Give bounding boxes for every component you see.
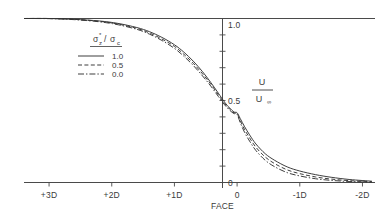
x-axis-tick-label: 0 bbox=[235, 190, 240, 200]
y-axis-tick-labels: 1.00.50 bbox=[228, 20, 240, 189]
curve-series bbox=[24, 18, 372, 181]
curve-series bbox=[24, 18, 372, 181]
x-axis-tick-label: +1D bbox=[166, 190, 182, 200]
y-axis-label-denominator: U bbox=[256, 94, 263, 104]
chart-svg: +3D+2D+1D0-1D-2D 1.00.50 FACE U U ∞ σ * … bbox=[0, 0, 381, 216]
legend-entries: 1.00.50.0 bbox=[78, 52, 124, 79]
legend-title-slash: / bbox=[104, 34, 107, 44]
y-axis-tick-label: 0 bbox=[228, 178, 233, 188]
x-axis-tick-label: -1D bbox=[293, 190, 307, 200]
legend: σ * z / σ c 1.00.50.0 bbox=[78, 32, 124, 79]
legend-title-subscript-z: z bbox=[99, 40, 102, 46]
curve-series bbox=[24, 19, 372, 183]
data-curves bbox=[24, 18, 372, 182]
legend-title-sigma-c: σ bbox=[110, 34, 116, 44]
x-axis-ticks bbox=[49, 183, 362, 187]
origin-caption: FACE bbox=[211, 201, 234, 211]
legend-title-star: * bbox=[99, 32, 102, 38]
y-axis-tick-label: 1.0 bbox=[228, 20, 240, 30]
x-axis-tick-label: +3D bbox=[41, 190, 57, 200]
x-axis-tick-labels: +3D+2D+1D0-1D-2D bbox=[41, 190, 370, 200]
legend-title: σ * z / σ c bbox=[90, 32, 122, 47]
y-axis-label-denominator-subscript: ∞ bbox=[267, 99, 271, 105]
velocity-profile-figure: +3D+2D+1D0-1D-2D 1.00.50 FACE U U ∞ σ * … bbox=[0, 0, 381, 216]
x-axis-tick-label: +2D bbox=[104, 190, 120, 200]
y-axis-tick-label: 0.5 bbox=[228, 96, 240, 106]
y-axis-label-numerator: U bbox=[259, 77, 266, 87]
legend-entry-label: 0.0 bbox=[112, 70, 124, 79]
y-axis-label: U U ∞ bbox=[252, 77, 273, 105]
legend-title-subscript-c: c bbox=[117, 40, 120, 46]
x-axis-tick-label: -2D bbox=[355, 190, 369, 200]
legend-entry-label: 0.5 bbox=[112, 61, 124, 70]
legend-entry-label: 1.0 bbox=[112, 52, 124, 61]
